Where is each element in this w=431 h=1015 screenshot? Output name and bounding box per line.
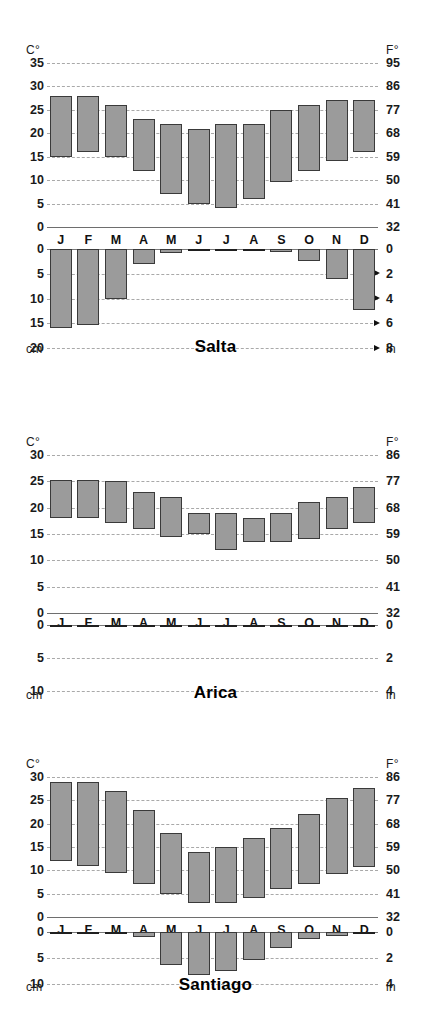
temp-tick-fahrenheit: 41 — [386, 198, 416, 211]
temp-unit-fahrenheit: F° — [386, 435, 399, 449]
temp-tick-celsius: 10 — [14, 864, 44, 877]
temp-range-bar — [105, 481, 127, 523]
precip-bar — [160, 625, 182, 627]
temp-range-bar — [298, 502, 320, 539]
temp-gridline — [47, 63, 378, 64]
precip-bar — [215, 249, 237, 251]
temp-tick-celsius: 15 — [14, 841, 44, 854]
month-label: F — [75, 617, 103, 630]
month-label: O — [295, 617, 323, 630]
temp-tick-celsius: 20 — [14, 502, 44, 515]
temp-tick-celsius: 10 — [14, 554, 44, 567]
chart-title: Santiago — [0, 975, 431, 995]
temp-range-bar — [270, 513, 292, 542]
temp-tick-celsius: 25 — [14, 794, 44, 807]
climate-charts-page: C°F°cmin032541105015592068257730863595JF… — [0, 0, 431, 1015]
precip-tick-cm: 5 — [14, 952, 44, 965]
precip-bar — [298, 249, 320, 261]
precip-bar — [50, 625, 72, 627]
precip-tick-in: 2 — [386, 268, 416, 281]
temp-range-bar — [50, 96, 72, 157]
temp-tick-celsius: 25 — [14, 104, 44, 117]
temp-range-bar — [105, 791, 127, 873]
month-label: D — [350, 617, 378, 630]
precip-bar — [326, 249, 348, 279]
temp-range-bar — [243, 518, 265, 542]
precip-bar — [133, 932, 155, 937]
month-label: D — [350, 234, 378, 247]
temp-tick-celsius: 20 — [14, 818, 44, 831]
temp-range-bar — [215, 513, 237, 550]
month-label: M — [102, 617, 130, 630]
temp-gridline — [47, 455, 378, 456]
month-label: M — [157, 617, 185, 630]
temp-gridline — [47, 180, 378, 181]
temp-range-bar — [160, 833, 182, 894]
temp-range-bar — [353, 100, 375, 152]
precip-bar — [188, 932, 210, 975]
month-label: J — [47, 234, 75, 247]
month-label: N — [323, 617, 351, 630]
temp-tick-celsius: 5 — [14, 198, 44, 211]
temp-tick-fahrenheit: 86 — [386, 80, 416, 93]
precip-bar — [133, 249, 155, 264]
temp-tick-fahrenheit: 95 — [386, 57, 416, 70]
temp-tick-celsius: 0 — [14, 911, 44, 924]
temp-range-bar — [188, 129, 210, 204]
precip-bar — [160, 249, 182, 253]
precip-bar — [77, 249, 99, 325]
month-label: S — [268, 234, 296, 247]
temp-range-bar — [50, 782, 72, 861]
precip-bar — [50, 932, 72, 934]
temp-unit-celsius: C° — [26, 43, 40, 57]
precip-bar — [270, 625, 292, 627]
temp-range-bar — [326, 100, 348, 161]
gridline-arrow-icon — [374, 320, 380, 326]
temp-range-bar — [188, 852, 210, 903]
temp-baseline — [47, 227, 378, 228]
precip-tick-in: 0 — [386, 926, 416, 939]
temp-range-bar — [133, 492, 155, 529]
precip-tick-cm: 0 — [14, 926, 44, 939]
precip-gridline — [47, 958, 378, 959]
precip-tick-in: 0 — [386, 619, 416, 632]
precip-bar — [50, 249, 72, 328]
precip-tick-in: 2 — [386, 652, 416, 665]
month-label: N — [323, 234, 351, 247]
precip-tick-cm: 5 — [14, 268, 44, 281]
precip-tick-cm: 10 — [14, 293, 44, 306]
month-label: D — [350, 924, 378, 937]
temp-range-bar — [77, 96, 99, 152]
precip-bar — [326, 625, 348, 627]
temp-tick-celsius: 20 — [14, 127, 44, 140]
precip-bar — [215, 932, 237, 971]
temp-range-bar — [353, 788, 375, 867]
temp-tick-fahrenheit: 50 — [386, 174, 416, 187]
temp-tick-celsius: 15 — [14, 151, 44, 164]
month-label: M — [102, 234, 130, 247]
precip-tick-cm: 5 — [14, 652, 44, 665]
temp-range-bar — [353, 487, 375, 524]
temp-tick-fahrenheit: 32 — [386, 911, 416, 924]
temp-range-bar — [160, 497, 182, 537]
precip-bar — [270, 249, 292, 252]
temp-range-bar — [160, 124, 182, 194]
precip-bar — [243, 932, 265, 960]
temp-tick-celsius: 5 — [14, 581, 44, 594]
month-label: A — [240, 234, 268, 247]
temp-range-bar — [215, 124, 237, 208]
precip-tick-cm: 15 — [14, 317, 44, 330]
temp-tick-celsius: 35 — [14, 57, 44, 70]
precip-bar — [77, 625, 99, 627]
month-label: O — [295, 234, 323, 247]
temp-tick-celsius: 25 — [14, 475, 44, 488]
month-label: M — [102, 924, 130, 937]
temp-range-bar — [243, 124, 265, 199]
precip-bar — [243, 249, 265, 251]
temp-range-bar — [326, 497, 348, 529]
temp-tick-fahrenheit: 32 — [386, 221, 416, 234]
temp-tick-fahrenheit: 50 — [386, 554, 416, 567]
precip-bar — [133, 625, 155, 627]
temp-tick-fahrenheit: 59 — [386, 841, 416, 854]
temp-tick-fahrenheit: 41 — [386, 888, 416, 901]
